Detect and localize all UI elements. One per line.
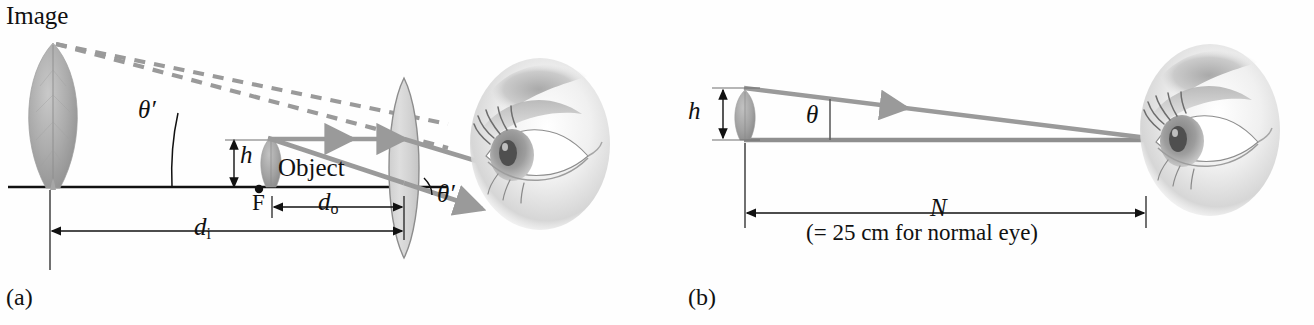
image-distance-label: di: [194, 213, 211, 243]
angle-theta-prime-axis-label: θ′: [437, 180, 455, 208]
near-point-label: N: [930, 194, 947, 222]
eye-illustration-b: [1140, 44, 1280, 216]
object-distance-label: do: [318, 188, 339, 218]
ray-arrow-b: [880, 105, 906, 108]
panel-b-group: [712, 44, 1280, 228]
object-leaf-b: [735, 90, 755, 140]
d-i-symbol: d: [194, 213, 207, 240]
ray-upper-b: [744, 88, 1148, 138]
ray-diagram-svg: [0, 0, 1314, 325]
focal-point-label: F: [252, 190, 265, 216]
eye-illustration-a: [470, 58, 610, 230]
image-label: Image: [6, 2, 68, 30]
panel-a-label: (a): [6, 284, 33, 311]
angle-theta-label: θ: [806, 101, 818, 129]
dashed-virtual-rays: [56, 44, 448, 148]
near-point-caption: (= 25 cm for normal eye): [806, 220, 1038, 246]
panel-b-label: (b): [688, 284, 716, 311]
image-distance-dimension: [50, 190, 402, 270]
angle-theta-prime-arc: [172, 113, 178, 187]
optics-figure: Image θ′ h Object F do di θ′ (a) h θ N (…: [0, 0, 1314, 325]
height-label-b: h: [688, 97, 701, 125]
d-i-subscript: i: [207, 225, 211, 242]
d-o-subscript: o: [331, 200, 339, 217]
height-label-a: h: [240, 141, 253, 169]
image-leaf: [29, 43, 78, 190]
angle-theta-prime-label: θ′: [138, 96, 156, 124]
d-o-symbol: d: [318, 188, 331, 215]
object-label: Object: [278, 154, 345, 182]
